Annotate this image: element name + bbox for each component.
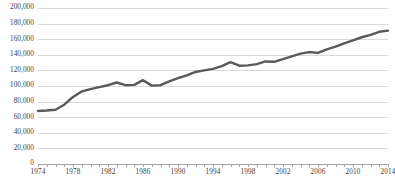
x-axis-tick bbox=[108, 164, 109, 167]
x-axis-tick-label: 2010 bbox=[346, 168, 361, 177]
y-axis-tick-label: 200,000 bbox=[0, 4, 34, 11]
y-axis-tick-label: 140,000 bbox=[0, 51, 34, 58]
x-axis-tick bbox=[239, 164, 240, 167]
x-axis-tick bbox=[388, 164, 389, 167]
x-axis-tick bbox=[362, 164, 363, 167]
x-axis-tick bbox=[222, 164, 223, 167]
x-axis-tick bbox=[38, 164, 39, 167]
x-axis-tick bbox=[47, 164, 48, 167]
x-axis-tick bbox=[283, 164, 284, 167]
x-axis-tick bbox=[91, 164, 92, 167]
x-axis-tick bbox=[309, 164, 310, 167]
x-axis-tick-label: 1998 bbox=[241, 168, 256, 177]
x-axis-tick-label: 1978 bbox=[66, 168, 81, 177]
x-axis-tick bbox=[204, 164, 205, 167]
x-axis-tick bbox=[292, 164, 293, 167]
x-axis-tick bbox=[248, 164, 249, 167]
x-axis-tick-label: 2002 bbox=[276, 168, 291, 177]
x-axis-tick bbox=[327, 164, 328, 167]
y-axis-tick-label: 120,000 bbox=[0, 67, 34, 74]
x-axis-tick bbox=[318, 164, 319, 167]
x-axis-tick bbox=[178, 164, 179, 167]
x-axis-tick bbox=[134, 164, 135, 167]
x-axis-tick bbox=[344, 164, 345, 167]
x-axis-tick bbox=[187, 164, 188, 167]
x-axis-tick bbox=[266, 164, 267, 167]
y-axis-tick-label: 160,000 bbox=[0, 36, 34, 43]
x-axis-tick-label: 1982 bbox=[101, 168, 116, 177]
y-axis-tick-label: 80,000 bbox=[0, 98, 34, 105]
x-axis-tick bbox=[379, 164, 380, 167]
series-polyline bbox=[38, 31, 388, 111]
plot-area bbox=[38, 8, 388, 164]
x-axis-tick bbox=[64, 164, 65, 167]
x-axis-tick-label: 2014 bbox=[381, 168, 395, 177]
x-axis-tick-label: 1990 bbox=[171, 168, 186, 177]
x-axis-tick bbox=[161, 164, 162, 167]
x-axis-tick bbox=[82, 164, 83, 167]
x-axis-tick bbox=[353, 164, 354, 167]
series-line bbox=[38, 8, 388, 164]
x-axis-tick bbox=[257, 164, 258, 167]
x-axis-tick bbox=[371, 164, 372, 167]
y-axis: 200,000180,000160,000140,000120,000100,0… bbox=[0, 8, 34, 164]
x-axis-tick bbox=[126, 164, 127, 167]
x-axis-tick bbox=[231, 164, 232, 167]
x-axis-tick-label: 1994 bbox=[206, 168, 221, 177]
x-axis-tick bbox=[213, 164, 214, 167]
x-axis-tick bbox=[152, 164, 153, 167]
y-axis-tick-label: 100,000 bbox=[0, 82, 34, 89]
x-axis-tick-label: 1986 bbox=[136, 168, 151, 177]
x-axis-tick bbox=[143, 164, 144, 167]
x-axis: 1974197819821986199019941998200220062010… bbox=[38, 168, 388, 182]
y-axis-tick-label: 0 bbox=[0, 160, 34, 167]
x-axis-tick bbox=[196, 164, 197, 167]
x-axis-tick bbox=[301, 164, 302, 167]
x-axis-tick bbox=[99, 164, 100, 167]
x-axis-tick bbox=[169, 164, 170, 167]
y-axis-tick-label: 60,000 bbox=[0, 114, 34, 121]
x-axis-tick bbox=[56, 164, 57, 167]
x-axis-tick-label: 1974 bbox=[31, 168, 46, 177]
x-axis-tick bbox=[274, 164, 275, 167]
x-axis-tick-label: 2006 bbox=[311, 168, 326, 177]
x-axis-tick bbox=[117, 164, 118, 167]
x-axis-tick bbox=[336, 164, 337, 167]
y-axis-tick-label: 180,000 bbox=[0, 20, 34, 27]
y-axis-tick-label: 20,000 bbox=[0, 145, 34, 152]
y-axis-tick-label: 40,000 bbox=[0, 129, 34, 136]
x-axis-tick bbox=[73, 164, 74, 167]
